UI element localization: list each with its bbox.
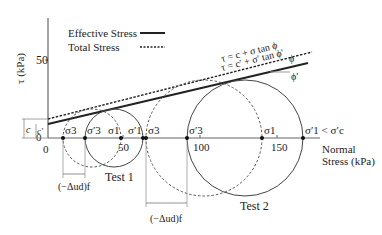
t1-pore-label: (−Δud)f (58, 181, 91, 193)
legend-total-label: Total Stress (68, 41, 119, 53)
t1-sigma3-point (61, 136, 65, 140)
y-tick-label-50: 50 (36, 53, 48, 67)
legend-effective-label: Effective Stress (68, 27, 137, 39)
x-axis-label-line2: Stress (kPa) (322, 155, 375, 168)
t2-sigma3p-point (185, 136, 189, 140)
t1-sigma1-label: σ1 (108, 124, 119, 136)
t2-pore-label: (−Δud)f (150, 213, 183, 225)
t1-sigma1-point (119, 136, 123, 140)
test2-label: Test 2 (240, 199, 269, 213)
t1-sigma3p-point (83, 136, 87, 140)
x-tick-label-100: 100 (193, 141, 210, 153)
t1-sigma3p-label: σ′3 (87, 124, 101, 136)
phi-total-label: ϕ (289, 53, 294, 64)
mohr-circle-diagram: 50 τ (kPa) 0 0 50 100 150 Normal Stress … (0, 0, 382, 235)
t2-sigma1p-compare-label: σ′1 < σ′c (305, 124, 344, 136)
x-tick-label-150: 150 (271, 141, 288, 153)
c-prime-label: c′ (37, 126, 44, 136)
c-label: c (26, 124, 31, 135)
y-axis-label: τ (kPa) (14, 53, 27, 84)
effective-stress-envelope (48, 63, 308, 124)
x-axis-label-line1: Normal (322, 143, 356, 155)
t2-sigma1-point (260, 136, 264, 140)
t2-sigma3-point (144, 136, 148, 140)
t2-sigma3p-label: σ′3 (189, 124, 203, 136)
t2-sigma1p-point (301, 136, 305, 140)
t2-sigma1-label: σ1 (264, 124, 275, 136)
test1-label: Test 1 (105, 170, 134, 184)
x-tick-label-0: 0 (43, 143, 49, 155)
t1-sigma1p-label: σ′1 (128, 124, 142, 136)
t1-sigma3-label: σ3 (65, 124, 77, 136)
phi-effective-label: ϕ′ (291, 71, 298, 82)
t2-sigma3-label: σ3 (148, 124, 160, 136)
